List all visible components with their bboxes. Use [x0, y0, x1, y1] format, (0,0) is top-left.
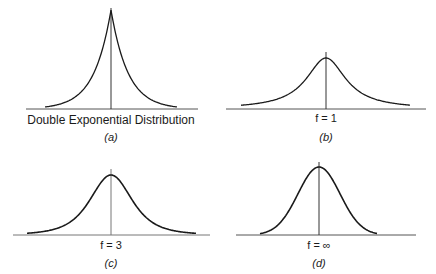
panel-b-plot [226, 52, 426, 109]
panel-c-caption: (c) [105, 257, 118, 269]
panel-d-label: f = ∞ [307, 239, 330, 251]
panel-b-caption: (b) [319, 131, 332, 143]
panel-c-plot [13, 169, 210, 235]
panel-a-caption: (a) [104, 131, 117, 143]
panel-d-plot [236, 162, 416, 235]
panel-d-caption: (d) [312, 257, 325, 269]
distribution-figure [0, 0, 436, 274]
panel-a-label: Double Exponential Distribution [27, 113, 194, 127]
panel-a-plot [26, 8, 198, 109]
panel-b-label: f = 1 [315, 112, 337, 124]
panel-c-label: f = 3 [100, 239, 122, 251]
